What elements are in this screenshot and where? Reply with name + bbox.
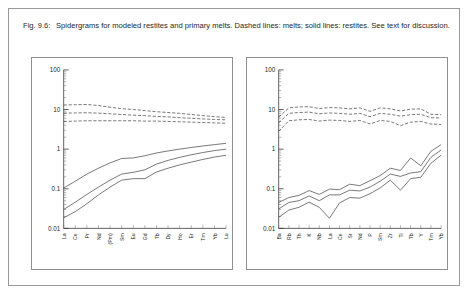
x-tick-label: Nb [316,233,322,240]
series-line-restite-middle [64,149,226,209]
x-tick-label: Ce [72,233,78,240]
x-tick-label: Sr [347,233,353,238]
x-tick-label: (Pm) [107,233,113,244]
x-tick-label: Ho [177,233,183,240]
y-tick-label: 0.1 [51,185,60,192]
series-line-melt-lower [279,119,441,131]
spidergram-ree-svg: 0.010.1110100LaCePrNd(Pm)SmEuGdTbDyHoErT… [32,58,232,269]
series-line-restite-upper [64,143,226,188]
x-tick-label: Zr [387,233,393,238]
chart-panel-ree: 0.010.1110100LaCePrNd(Pm)SmEuGdTbDyHoErT… [31,57,233,270]
x-tick-label: Y [418,233,424,237]
y-tick-label: 1 [272,145,276,152]
x-tick-label: Yb [438,233,444,239]
x-tick-label: Er [188,233,194,238]
x-tick-label: Pr [84,233,90,238]
x-tick-label: Eu [130,233,136,239]
series-line-restite-lower [64,155,226,218]
x-tick-label: La [327,233,333,239]
x-tick-label: Rb [286,233,292,240]
series-line-restite-lower [279,155,441,218]
x-tick-label: Nd [357,233,363,240]
y-tick-label: 0.01 [263,225,276,232]
y-tick-label: 0.01 [48,225,61,232]
x-tick-label: Yb [212,233,218,239]
x-tick-label: P [367,233,373,237]
figure-caption: Fig. 9.6:Spidergrams for modeled restite… [23,21,459,32]
x-tick-label: Gd [142,233,148,240]
series-line-melt-upper [279,107,441,118]
figure-number: Fig. 9.6: [23,21,56,32]
x-tick-label: Tb [408,233,414,239]
spidergram-multielement-svg: 0.010.1110100BaRbThKNbLaCeSrNdPSmZrTiTbY… [247,58,447,269]
series-line-melt-middle [279,112,441,123]
x-tick-label: Tm [200,233,206,240]
x-tick-label: La [61,233,67,239]
x-tick-label: Ba [276,233,282,239]
y-tick-label: 0.1 [266,185,275,192]
x-tick-label: Sm [377,233,383,241]
x-tick-label: Ti [398,233,404,237]
figure-outer-border: Fig. 9.6:Spidergrams for modeled restite… [8,8,460,286]
y-tick-label: 10 [268,106,276,113]
x-tick-label: Tm [428,233,434,240]
x-tick-label: Th [296,233,302,239]
series-line-melt-lower [64,121,226,123]
chart-panel-multielement: 0.010.1110100BaRbThKNbLaCeSrNdPSmZrTiTbY… [246,57,448,270]
x-tick-label: Sm [119,233,125,241]
y-tick-label: 100 [265,66,276,73]
x-tick-label: Tb [154,233,160,239]
figure-caption-text: Spidergrams for modeled restites and pri… [56,21,451,32]
series-line-melt-middle [64,113,226,120]
y-tick-label: 100 [50,66,61,73]
y-tick-label: 10 [53,106,61,113]
x-tick-label: Lu [223,233,229,239]
x-tick-label: Nd [96,233,102,240]
x-tick-label: Ce [337,233,343,240]
x-tick-label: Dy [165,233,171,240]
series-line-restite-upper [279,145,441,203]
x-tick-label: K [306,233,312,237]
y-tick-label: 1 [57,145,61,152]
series-line-restite-middle [279,150,441,209]
